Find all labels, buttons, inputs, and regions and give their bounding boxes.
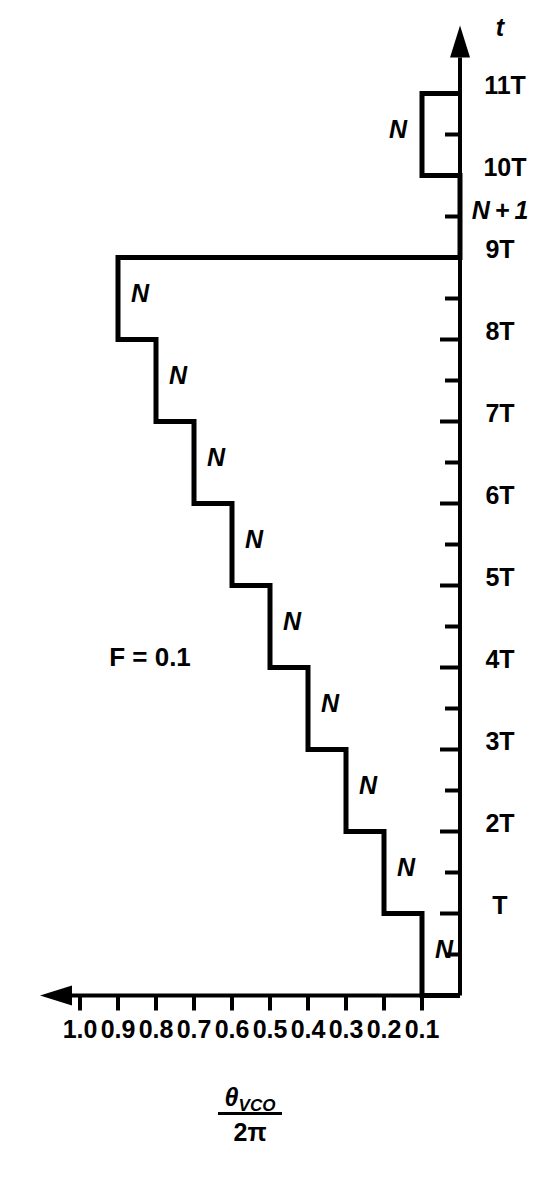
y-tick-label-0.6: 0.6: [215, 1014, 250, 1042]
step-label-5: N: [283, 606, 302, 634]
x-tick-label-4: 4T: [485, 644, 514, 672]
step-label-1: N: [435, 934, 454, 962]
step-label-9: N: [131, 278, 150, 306]
x-axis-ticks: [440, 93, 460, 954]
step-label-10: N + 1: [472, 195, 529, 223]
rotated-figure-wrapper: T 2T 3T 4T 5T 6T 7T 8T 9T 10T 11T t: [0, 0, 550, 1185]
x-tick-label-6: 6T: [485, 480, 514, 508]
staircase-chart-svg: T 2T 3T 4T 5T 6T 7T 8T 9T 10T 11T t: [0, 0, 550, 1185]
x-tick-label-9: 9T: [485, 234, 514, 262]
y-axis-title-numerator: θVCO: [225, 1082, 276, 1114]
y-tick-label-0.5: 0.5: [253, 1014, 288, 1042]
x-tick-label-11: 11T: [484, 70, 526, 98]
x-tick-label-1: T: [492, 890, 507, 918]
y-tick-label-0.2: 0.2: [367, 1014, 402, 1042]
y-axis-tick-labels: 0.1 0.2 0.3 0.4 0.5 0.6 0.7 0.8 0.9 1.0: [63, 1014, 440, 1042]
x-tick-label-7: 7T: [485, 398, 514, 426]
vco-subscript: VCO: [239, 1095, 276, 1114]
step-label-7: N: [207, 442, 226, 470]
y-tick-label-0.4: 0.4: [291, 1014, 326, 1042]
y-tick-label-0.1: 0.1: [405, 1014, 440, 1042]
chart-figure: T 2T 3T 4T 5T 6T 7T 8T 9T 10T 11T t: [0, 0, 550, 1185]
x-tick-label-5: 5T: [485, 562, 514, 590]
y-axis-title: θVCO 2π: [218, 1082, 282, 1145]
step-label-2: N: [397, 852, 416, 880]
x-axis-arrowhead: [450, 25, 470, 57]
step-label-4: N: [321, 688, 340, 716]
step-label-8: N: [169, 360, 188, 388]
x-axis-title: t: [496, 12, 506, 40]
x-tick-label-8: 8T: [485, 316, 514, 344]
y-tick-label-0.7: 0.7: [177, 1014, 212, 1042]
y-axis-arrowhead: [40, 985, 72, 1005]
step-label-3: N: [359, 770, 378, 798]
x-tick-label-3: 3T: [485, 726, 514, 754]
y-axis-title-denominator: 2π: [233, 1117, 266, 1145]
y-tick-label-0.8: 0.8: [139, 1014, 174, 1042]
step-label-11: N: [389, 114, 408, 142]
condition-annotation: F = 0.1: [109, 641, 191, 671]
y-tick-label-0.3: 0.3: [329, 1014, 364, 1042]
figure-page: T 2T 3T 4T 5T 6T 7T 8T 9T 10T 11T t: [0, 0, 550, 1185]
step-divider-labels: N N N N N N N N N N + 1 N: [131, 114, 528, 962]
y-tick-label-1.0: 1.0: [63, 1014, 98, 1042]
x-tick-label-2: 2T: [485, 808, 514, 836]
theta-symbol: θ: [225, 1082, 239, 1110]
step-label-6: N: [245, 524, 264, 552]
y-tick-label-0.9: 0.9: [101, 1014, 136, 1042]
x-tick-label-10: 10T: [483, 152, 526, 180]
